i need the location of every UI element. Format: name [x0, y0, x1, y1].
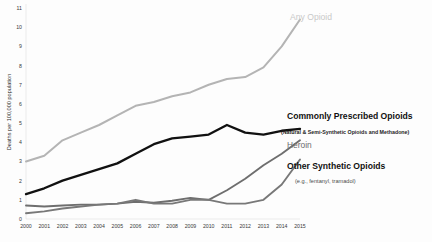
annotation-other-synthetic-subtitle: (e.g., fentanyl, tramadol)	[295, 178, 356, 184]
annotation-any-opioid: Any Opioid	[290, 12, 332, 22]
annotation-layer: Any Opioid Commonly Prescribed Opioids (…	[0, 0, 432, 242]
annotation-commonly-prescribed-subtitle: (Natural & Semi-Synthetic Opioids and Me…	[281, 129, 410, 135]
annotation-commonly-prescribed-title: Commonly Prescribed Opioids	[287, 111, 413, 121]
annotation-heroin: Heroin	[287, 140, 312, 150]
annotation-other-synthetic-title: Other Synthetic Opioids	[287, 161, 386, 171]
opioid-overdose-death-rate-chart: 01234567891011 2000200120022003200420052…	[0, 0, 432, 242]
